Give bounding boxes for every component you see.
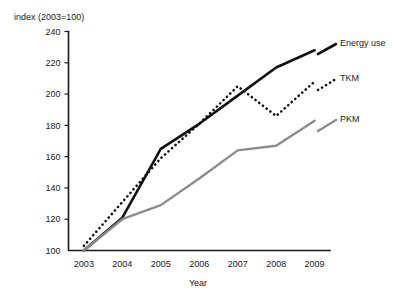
data-series-group — [84, 50, 315, 250]
x-tick-label: 2005 — [151, 259, 171, 269]
chart-plot-area: 100120140160180200220240 200320042005200… — [0, 0, 396, 302]
y-tick-label: 100 — [45, 246, 60, 256]
x-tick-label: 2007 — [228, 259, 248, 269]
y-tick-label-group: 100120140160180200220240 — [45, 27, 60, 256]
x-tick-label: 2003 — [74, 259, 94, 269]
legend-label: TKM — [340, 73, 359, 83]
legend-swatch — [318, 44, 336, 54]
legend-label: PKM — [340, 114, 360, 124]
x-tick-label: 2004 — [112, 259, 132, 269]
x-tick-label: 2008 — [266, 259, 286, 269]
y-tick-label: 180 — [45, 121, 60, 131]
legend-swatch — [318, 120, 336, 131]
y-tick-label: 240 — [45, 27, 60, 37]
x-tick-label: 2006 — [189, 259, 209, 269]
y-tick-label: 160 — [45, 152, 60, 162]
y-tick-label: 220 — [45, 58, 60, 68]
legend-label: Energy use — [340, 38, 386, 48]
series-line — [84, 121, 315, 251]
y-tick-label: 120 — [45, 214, 60, 224]
x-tick-label-group: 2003200420052006200720082009 — [74, 259, 325, 269]
x-tick-label: 2009 — [305, 259, 325, 269]
chart-container: index (2003=100) Year 100120140160180200… — [0, 0, 396, 302]
legend-swatch — [318, 79, 336, 90]
y-tick-label: 200 — [45, 89, 60, 99]
y-tick-label: 140 — [45, 183, 60, 193]
series-line — [84, 50, 315, 250]
chart-legend: Energy useTKMPKM — [318, 38, 386, 131]
